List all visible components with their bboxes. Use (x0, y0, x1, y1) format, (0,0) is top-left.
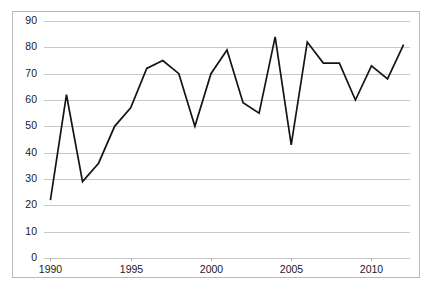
x-tick-label: 1990 (39, 263, 63, 275)
x-tick-label: 2010 (360, 263, 384, 275)
x-axis-tick-labels: 19901995200020052010 (39, 263, 384, 275)
y-tick-label: 0 (31, 251, 37, 263)
chart-figure: 0102030405060708090 19901995200020052010 (0, 0, 432, 290)
x-tick-label: 2005 (280, 263, 304, 275)
line-chart: 0102030405060708090 19901995200020052010 (0, 0, 432, 290)
y-tick-label: 90 (25, 14, 37, 26)
y-tick-label: 70 (25, 67, 37, 79)
series-line-0 (50, 37, 403, 200)
data-series (50, 37, 403, 200)
y-tick-label: 80 (25, 40, 37, 52)
gridlines (44, 22, 410, 259)
y-tick-label: 10 (25, 225, 37, 237)
y-axis-tick-labels: 0102030405060708090 (25, 14, 37, 263)
y-tick-label: 50 (25, 119, 37, 131)
y-tick-label: 20 (25, 198, 37, 210)
y-tick-label: 30 (25, 172, 37, 184)
x-tick-label: 1995 (120, 263, 144, 275)
x-tick-label: 2000 (200, 263, 224, 275)
y-tick-label: 60 (25, 93, 37, 105)
y-tick-label: 40 (25, 146, 37, 158)
